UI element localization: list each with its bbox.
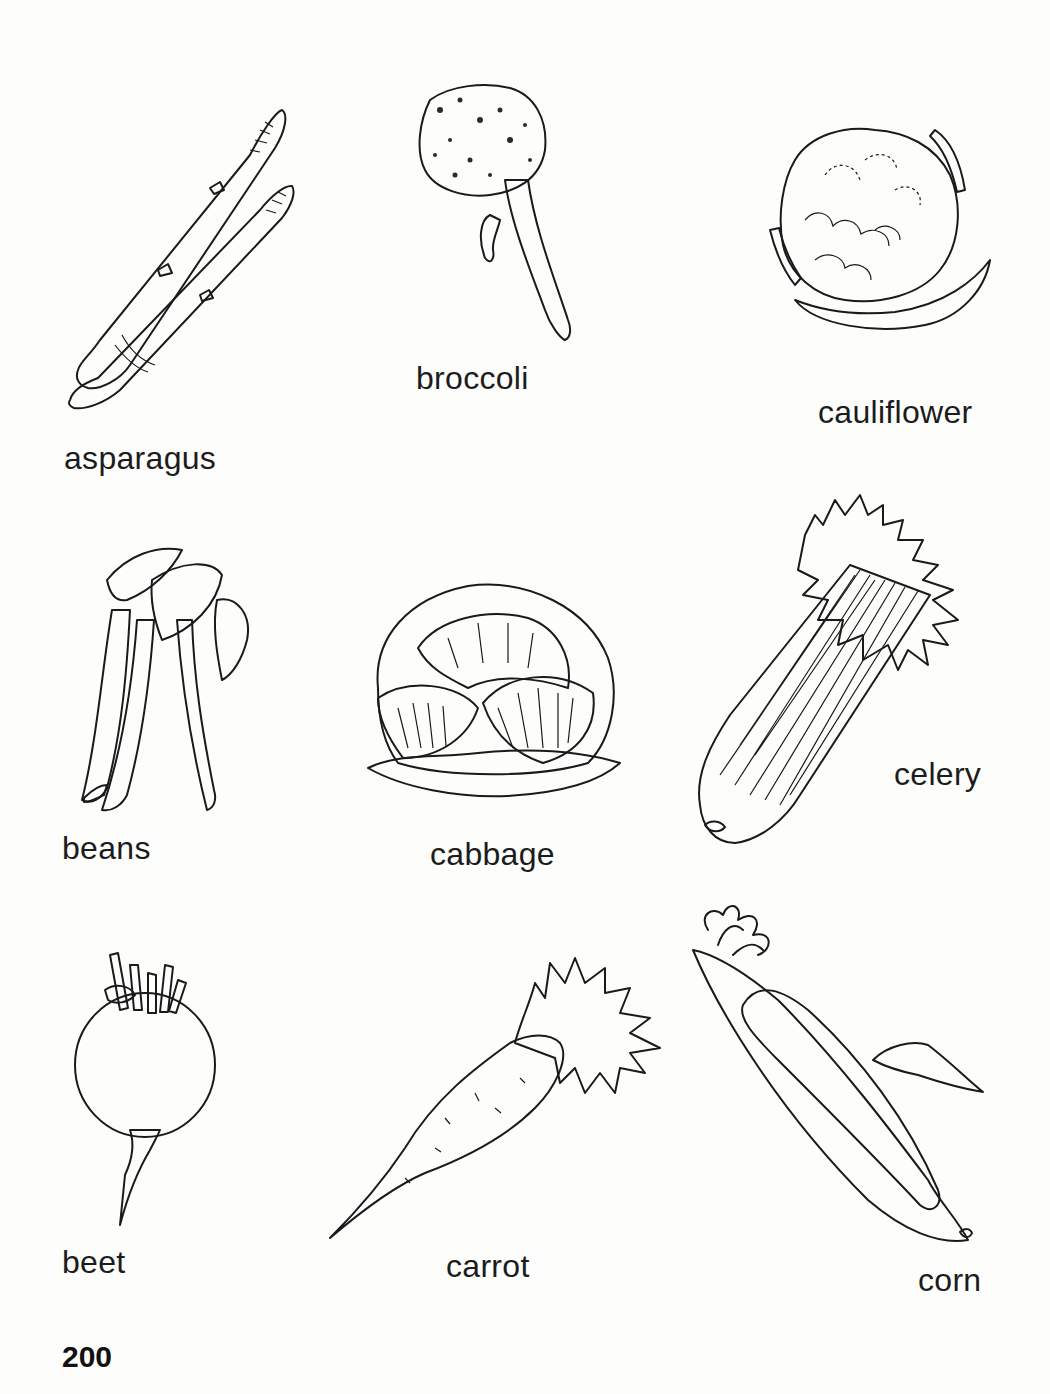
asparagus-icon	[60, 100, 310, 410]
vegetable-label: asparagus	[64, 440, 216, 477]
vegetable-label: beans	[62, 830, 151, 867]
vegetable-label: carrot	[446, 1248, 530, 1285]
cabbage-icon	[358, 578, 623, 808]
carrot-icon	[325, 948, 655, 1248]
beet-icon	[70, 945, 210, 1235]
vegetable-label: cabbage	[430, 836, 555, 873]
beans-icon	[72, 540, 262, 820]
vegetable-label: broccoli	[416, 360, 529, 397]
corn-icon	[688, 900, 988, 1250]
vegetable-label: celery	[894, 756, 981, 793]
broccoli-icon	[410, 80, 580, 350]
page-number: 200	[62, 1340, 112, 1374]
vegetable-label: corn	[918, 1262, 981, 1299]
cauliflower-icon	[765, 120, 995, 340]
vegetable-label: beet	[62, 1244, 125, 1281]
vegetable-label: cauliflower	[818, 394, 972, 431]
